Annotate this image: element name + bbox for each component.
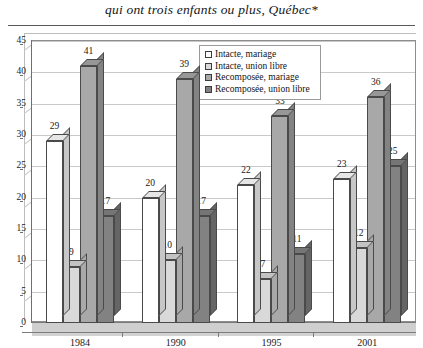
x-axis-tick-mark xyxy=(218,332,219,337)
legend-swatch-icon xyxy=(205,74,212,81)
legend-item-label: Intacte, mariage xyxy=(215,49,276,60)
title-divider xyxy=(8,25,415,26)
y-axis-tick-mark xyxy=(20,326,23,327)
gridline xyxy=(32,41,415,42)
plot-depth-top-edge xyxy=(24,33,416,34)
bar xyxy=(333,172,350,323)
chart-legend: Intacte, mariageIntacte, union libreReco… xyxy=(199,45,321,100)
x-axis-tick-label: 2001 xyxy=(319,337,415,348)
bar-side-face xyxy=(159,184,166,316)
x-axis-tick-mark xyxy=(122,332,123,337)
y-axis-tick-mark xyxy=(20,201,23,202)
y-axis-tick-mark xyxy=(20,295,23,296)
bar-front-face xyxy=(46,141,63,323)
bar-side-face xyxy=(193,65,200,316)
legend-swatch-icon xyxy=(205,63,212,70)
x-axis-tick-label: 1995 xyxy=(223,337,319,348)
title-area: qui ont trois enfants ou plus, Québec* xyxy=(0,0,423,30)
legend-item-label: Recomposée, mariage xyxy=(215,72,299,83)
plot-base-line xyxy=(22,332,416,333)
y-axis-tick-mark xyxy=(20,263,23,264)
legend-swatch-icon xyxy=(205,86,212,93)
y-axis-tick-mark xyxy=(20,169,23,170)
y-axis-tick-mark xyxy=(20,107,23,108)
bar-value-label: 41 xyxy=(76,46,101,56)
legend-item: Intacte, mariage xyxy=(205,49,315,60)
bar-value-label: 20 xyxy=(138,178,163,188)
y-axis-tick-mark xyxy=(20,138,23,139)
plot-floor xyxy=(32,323,416,336)
y-axis-line xyxy=(31,40,32,323)
bar-value-label: 23 xyxy=(329,159,354,169)
bar-value-label: 22 xyxy=(233,165,258,175)
bar xyxy=(46,134,63,323)
bar xyxy=(237,178,254,323)
x-axis-tick-label: 1984 xyxy=(32,337,128,348)
legend-item: Intacte, union libre xyxy=(205,61,315,72)
bar-side-face xyxy=(97,52,104,316)
bar-front-face xyxy=(237,185,254,323)
bar-front-face xyxy=(142,198,159,323)
legend-item: Recomposée, union libre xyxy=(205,84,315,95)
bar-side-face xyxy=(288,102,295,316)
legend-swatch-icon xyxy=(205,51,212,58)
bar xyxy=(142,191,159,323)
legend-item-label: Intacte, union libre xyxy=(215,61,287,72)
legend-item-label: Recomposée, union libre xyxy=(215,84,310,95)
bar-side-face xyxy=(63,127,70,316)
bar-side-face xyxy=(254,171,261,316)
bar-side-face xyxy=(210,202,217,316)
bar-side-face xyxy=(114,202,121,316)
x-axis-tick-label: 1990 xyxy=(128,337,224,348)
legend-item: Recomposée, mariage xyxy=(205,72,315,83)
bar-front-face xyxy=(333,179,350,323)
y-axis-tick-mark xyxy=(20,232,23,233)
bar-value-label: 36 xyxy=(363,77,388,87)
y-axis-tick-mark xyxy=(20,75,23,76)
bar-value-label: 39 xyxy=(172,59,197,69)
x-axis-tick-mark xyxy=(313,332,314,337)
bar-side-face xyxy=(350,165,357,316)
page-title: qui ont trois enfants ou plus, Québec* xyxy=(0,2,423,18)
bar-value-label: 29 xyxy=(42,121,67,131)
bar-side-face xyxy=(401,152,408,316)
chart-canvas: 051015202530354045 174192917391020113372… xyxy=(0,30,423,344)
bar-side-face xyxy=(384,83,391,316)
y-axis-tick-mark xyxy=(20,44,23,45)
